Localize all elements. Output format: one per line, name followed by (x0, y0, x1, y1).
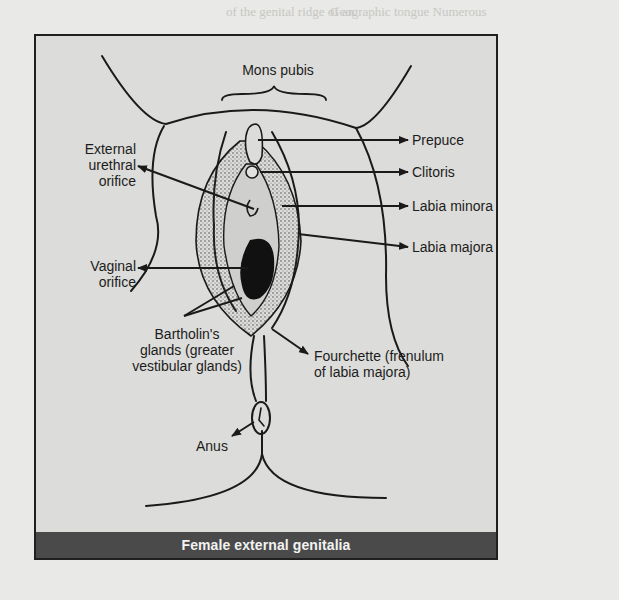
label-mons-pubis: Mons pubis (234, 62, 322, 78)
label-vaginal-orifice: Vaginal orifice (58, 258, 136, 290)
label-line: External (58, 141, 136, 157)
label-line: Bartholin's (116, 326, 258, 342)
label-line: Fourchette (frenulum (314, 348, 444, 364)
caption-bar: Female external genitalia (36, 532, 496, 558)
label-line: urethral (58, 157, 136, 173)
label-line: Vaginal (58, 258, 136, 274)
label-fourchette: Fourchette (frenulum of labia majora) (314, 348, 444, 380)
label-clitoris: Clitoris (412, 164, 455, 180)
label-prepuce: Prepuce (412, 132, 464, 148)
label-line: glands (greater (116, 342, 258, 358)
label-labia-majora: Labia majora (412, 239, 493, 255)
label-line: orifice (58, 274, 136, 290)
label-anus: Anus (196, 438, 228, 454)
label-line: vestibular glands) (116, 358, 258, 374)
figure-frame: Mons pubis External urethral orifice Vag… (34, 34, 498, 560)
background-text-top-right: Geographic tongue Numerous (330, 2, 487, 22)
figure-caption: Female external genitalia (181, 537, 350, 553)
label-line: orifice (58, 173, 136, 189)
label-labia-minora: Labia minora (412, 198, 493, 214)
label-line: of labia majora) (314, 364, 444, 380)
label-bartholins-glands: Bartholin's glands (greater vestibular g… (116, 326, 258, 374)
label-external-urethral-orifice: External urethral orifice (58, 141, 136, 189)
